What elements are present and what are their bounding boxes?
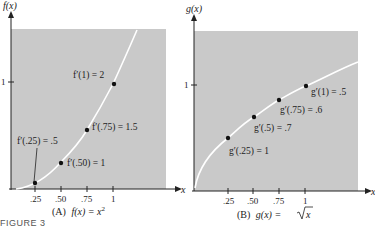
y-axis-arrow-icon xyxy=(8,11,14,18)
point-label-f1: f′(1) = 2 xyxy=(73,70,104,81)
x-axis-label-a: x xyxy=(180,184,186,195)
plot-area-b xyxy=(194,31,358,191)
data-point xyxy=(112,82,116,86)
caption-b: (B) g(x) = xyxy=(237,209,281,221)
point-label-f25: f′(.25) = .5 xyxy=(17,136,58,147)
point-label-g25: g′(.25) = 1 xyxy=(229,146,269,157)
data-point xyxy=(59,161,63,165)
x-axis-label-b: x xyxy=(370,186,375,197)
y-axis-label-b: g(x) xyxy=(186,3,203,15)
radical-icon xyxy=(297,207,313,219)
point-label-g1: g′(1) = .5 xyxy=(311,87,346,98)
x-tick-label: .75 xyxy=(273,196,285,206)
x-tick-label: 1 xyxy=(111,194,116,204)
point-label-f50: f′(.50) = 1 xyxy=(67,158,106,169)
data-point xyxy=(277,98,281,102)
panel-b: x g(x) 1 .25 .50 .75 1 g′(1) = .5 g′(.75… xyxy=(184,3,375,221)
data-point xyxy=(33,181,37,185)
x-tick-label: .50 xyxy=(55,194,67,204)
y-axis-label-a: f(x) xyxy=(3,0,18,12)
x-tick-label: .75 xyxy=(81,194,93,204)
x-tick-label: .50 xyxy=(247,196,259,206)
x-tick-label: 1 xyxy=(303,196,308,206)
y-tick-label-b: 1 xyxy=(184,80,189,90)
data-point xyxy=(85,128,89,132)
point-label-f75: f′(.75) = 1.5 xyxy=(92,122,138,133)
data-point xyxy=(252,115,256,119)
point-label-g50: g′(.5) = .7 xyxy=(254,123,292,134)
caption-a: (A) f(x) = x2 xyxy=(52,205,105,218)
x-tick-label: .25 xyxy=(223,196,235,206)
figure: x f(x) 1 .25 .50 .75 1 f′(1) = 2 f′(.75)… xyxy=(0,0,375,229)
y-tick-label-a: 1 xyxy=(1,77,6,87)
panel-a: x f(x) 1 .25 .50 .75 1 f′(1) = 2 f′(.75)… xyxy=(1,0,186,218)
figure-caption: FIGURE 3 xyxy=(0,218,46,228)
point-label-g75: g′(.75) = .6 xyxy=(280,105,323,116)
y-axis-arrow-icon xyxy=(191,14,197,21)
radicand: x xyxy=(305,209,311,220)
x-tick-label: .25 xyxy=(30,194,42,204)
data-point xyxy=(226,136,230,140)
data-point xyxy=(304,84,308,88)
